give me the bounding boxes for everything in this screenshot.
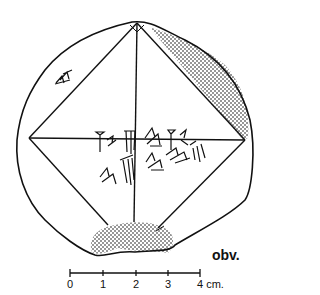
stipple-bottom bbox=[91, 222, 173, 253]
cuneiform-sign-upper-left bbox=[55, 70, 72, 84]
stipple-top-right bbox=[152, 28, 248, 140]
scale-tick-1: 1 bbox=[100, 278, 106, 290]
scale-tick-4: 4 cm. bbox=[197, 278, 224, 290]
scale-tick-3: 3 bbox=[165, 278, 171, 290]
scale-tick-0: 0 bbox=[67, 278, 73, 290]
scale-tick-2: 2 bbox=[133, 278, 139, 290]
cuneiform-row-2 bbox=[100, 141, 205, 185]
side-label: obv. bbox=[212, 247, 240, 263]
scale-bar bbox=[70, 269, 200, 277]
cuneiform-row-1 bbox=[96, 128, 188, 154]
